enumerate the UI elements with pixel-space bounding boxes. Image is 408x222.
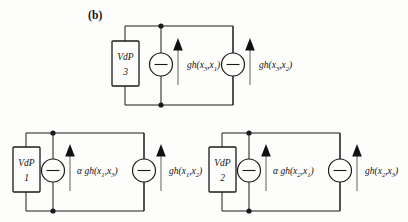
circuit-vdp1: VdP 1 α gh(x1,x3) gh(x1,x2) [13,130,202,213]
vdp3-box-line1: VdP [117,52,134,62]
vdp1-source1-func: gh [84,166,94,176]
vdp1-source2-label: gh(x1,x2) [169,166,202,178]
vdp3-junction-bottom [158,102,163,107]
vdp2-junction-top [246,130,251,135]
vdp3-source1-label: gh(x3,x1) [187,60,220,72]
circuit-vdp2: VdP 2 α gh(x2,x1) gh(x2,x3) [209,130,398,213]
vdp3-current-arrow2-head [245,38,255,51]
vdp1-junction-top [50,130,55,135]
vdp1-source1-label: α gh(x1,x3) [77,166,118,178]
vdp2-box-line1: VdP [214,158,231,168]
vdp2-current-arrow2-head [352,144,362,157]
vdp3-box-line2: 3 [122,67,128,77]
vdp2-box-line2: 2 [220,173,225,183]
circuit-diagram-svg: VdP 3 gh(x3,x1) gh(x3,x2) [0,0,408,222]
vdp1-box-line1: VdP [18,158,35,168]
vdp2-source1-label: α gh(x2,x1) [273,166,314,178]
vdp2-junction-bottom [246,208,251,213]
vdp3-current-arrow1-head [173,38,183,51]
vdp3-box [112,41,139,86]
vdp3-junction-top [158,23,163,28]
vdp1-source2-func: gh [169,166,179,176]
vdp3-source2-label: gh(x3,x2) [259,60,292,72]
vdp3-source1-func: gh [187,60,197,70]
vdp1-current-arrow1-head [65,144,75,157]
vdp2-source2-func: gh [365,166,375,176]
vdp1-junction-bottom [50,208,55,213]
vdp1-box [13,147,40,192]
vdp2-box [209,147,236,192]
circuit-vdp3: VdP 3 gh(x3,x1) gh(x3,x2) [112,23,292,107]
figure-canvas: (b) VdP 3 gh(x3,x1) [0,0,408,222]
vdp2-source1-func: gh [280,166,290,176]
vdp3-source2-func: gh [259,60,269,70]
vdp1-box-line2: 1 [24,173,29,183]
vdp1-current-arrow2-head [156,144,166,157]
vdp2-current-arrow1-head [261,144,271,157]
vdp2-source2-label: gh(x2,x3) [365,166,398,178]
